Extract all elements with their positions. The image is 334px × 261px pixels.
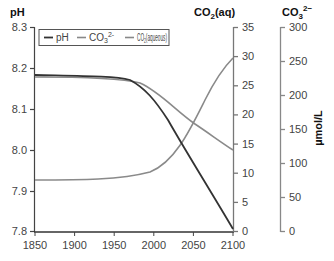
svg-text:2100: 2100 bbox=[221, 239, 245, 251]
svg-text:150: 150 bbox=[289, 123, 307, 135]
svg-text:1900: 1900 bbox=[62, 239, 86, 251]
ph-line bbox=[35, 75, 233, 229]
legend: pH CO32- CO2(aqueous) bbox=[39, 30, 169, 46]
svg-text:1850: 1850 bbox=[23, 239, 47, 251]
svg-text:10: 10 bbox=[242, 167, 254, 179]
svg-text:30: 30 bbox=[242, 50, 254, 62]
svg-text:7.8: 7.8 bbox=[12, 225, 27, 237]
legend-co2: CO2(aqueous) bbox=[137, 32, 167, 44]
svg-text:8.3: 8.3 bbox=[12, 21, 27, 33]
co3-ticks: 300 250 200 150 100 50 0 bbox=[289, 21, 307, 237]
svg-text:0: 0 bbox=[289, 225, 295, 237]
svg-text:50: 50 bbox=[289, 191, 301, 203]
ph-axis bbox=[30, 27, 35, 232]
svg-text:15: 15 bbox=[242, 138, 254, 150]
svg-text:8.0: 8.0 bbox=[12, 144, 27, 156]
svg-text:100: 100 bbox=[289, 157, 307, 169]
svg-text:2000: 2000 bbox=[142, 239, 166, 251]
svg-text:8.2: 8.2 bbox=[12, 62, 27, 74]
unit-label: µmol/L bbox=[312, 110, 324, 146]
co3-line bbox=[35, 77, 233, 150]
co3-axis bbox=[281, 27, 286, 232]
ph-ticks: 8.3 8.2 8.1 8.0 7.9 7.8 bbox=[12, 21, 27, 237]
svg-text:8.1: 8.1 bbox=[12, 103, 27, 115]
co2-ticks: 35 30 25 20 15 10 5 0 bbox=[242, 21, 254, 237]
co3-axis-title: CO32− bbox=[282, 4, 312, 21]
co2-axis bbox=[234, 27, 239, 232]
chart: pH CO2(aq) CO32− 8.3 8.2 8.1 8.0 7.9 7.8… bbox=[0, 0, 334, 261]
svg-text:0: 0 bbox=[242, 225, 248, 237]
legend-ph: pH bbox=[56, 32, 69, 43]
svg-text:5: 5 bbox=[242, 196, 248, 208]
co2-axis-title: CO2(aq) bbox=[194, 6, 235, 21]
x-ticks: 1850 1900 1950 2000 2050 2100 bbox=[23, 239, 245, 251]
svg-text:250: 250 bbox=[289, 55, 307, 67]
svg-text:25: 25 bbox=[242, 79, 254, 91]
svg-text:1950: 1950 bbox=[102, 239, 126, 251]
svg-text:20: 20 bbox=[242, 108, 254, 120]
ph-axis-title: pH bbox=[10, 6, 25, 18]
svg-text:7.9: 7.9 bbox=[12, 185, 27, 197]
svg-text:200: 200 bbox=[289, 89, 307, 101]
svg-text:300: 300 bbox=[289, 21, 307, 33]
svg-text:2050: 2050 bbox=[181, 239, 205, 251]
svg-text:35: 35 bbox=[242, 21, 254, 33]
